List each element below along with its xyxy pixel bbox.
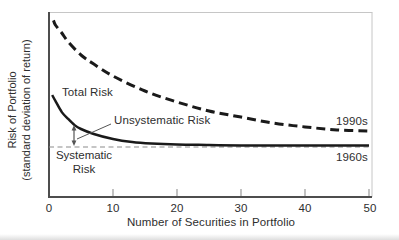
systematic-risk-label: Systematic Risk: [51, 149, 117, 176]
x-tick-label-50: 50: [364, 202, 377, 215]
nineties-risk-curve: [54, 20, 370, 131]
x-axis-label: Number of Securities in Portfolio: [127, 216, 295, 229]
x-tick-label-20: 20: [171, 202, 184, 215]
y-axis-label-line2: (standard deviation of return): [20, 25, 34, 195]
total-risk-label: Total Risk: [62, 86, 113, 99]
page-edge-shadow: [0, 234, 399, 240]
x-tick-label-30: 30: [235, 202, 248, 215]
era-1990s-label: 1990s: [336, 115, 368, 128]
diversification-risk-chart: Risk of Portfolio (standard deviation of…: [0, 0, 399, 240]
x-ticks: [113, 189, 369, 197]
total-risk-curve: [52, 95, 369, 146]
y-axis-label-line1: Risk of Portfolio: [6, 25, 20, 195]
y-axis-label: Risk of Portfolio (standard deviation of…: [6, 25, 34, 195]
unsystematic-gap-arrow: [72, 125, 77, 146]
unsystematic-risk-label: Unsystematic Risk: [114, 114, 210, 127]
x-tick-label-40: 40: [299, 202, 312, 215]
x-tick-label-0: 0: [46, 202, 53, 215]
era-1960s-label: 1960s: [336, 151, 368, 164]
x-tick-label-10: 10: [107, 202, 120, 215]
